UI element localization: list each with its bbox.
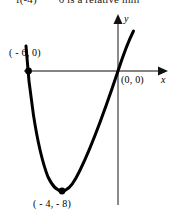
- graph-svg: [0, 0, 176, 218]
- label-x-axis: x: [161, 74, 165, 85]
- y-axis-arrow-icon: [114, 14, 123, 24]
- parabola-graph: [0, 0, 176, 218]
- point-marker-vertex: [59, 188, 66, 195]
- figure-panel: f(-4)0 is a relative min ( - 6, 0) (0, 0…: [0, 0, 176, 218]
- label-y-axis: y: [124, 13, 128, 24]
- point-marker-x-intercept: [25, 68, 32, 75]
- label-vertex: ( - 4, - 8): [33, 198, 71, 209]
- label-x-intercept-left: ( - 6, 0): [9, 47, 41, 58]
- label-origin: (0, 0): [121, 74, 144, 85]
